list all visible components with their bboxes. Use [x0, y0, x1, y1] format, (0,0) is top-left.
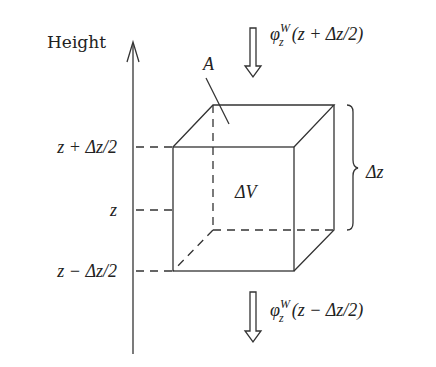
- level-label-mid: z: [109, 200, 117, 220]
- flux-label-bottom: φWz(z − Δz/2): [270, 297, 363, 325]
- flux-arrow-top: [245, 28, 261, 77]
- area-label: A: [202, 54, 215, 74]
- level-label-bottom: z − Δz/2: [56, 261, 117, 281]
- height-axis: [127, 42, 139, 354]
- down-arrow-icon: [245, 292, 261, 342]
- height-brace-icon: [347, 105, 358, 230]
- cube-hidden-edge-depth: [173, 230, 213, 271]
- cube-top-face: [173, 105, 334, 147]
- down-arrow-icon: [245, 28, 261, 77]
- cube-right-face: [294, 105, 334, 271]
- height-label: Δz: [365, 162, 384, 182]
- area-leader-line: [206, 78, 229, 124]
- control-volume-diagram: Height z + Δz/2 z z − Δz/2 A ΔV Δz φWz(z…: [0, 0, 436, 367]
- axis-label: Height: [47, 32, 106, 52]
- flux-label-top: φWz(z + Δz/2): [270, 21, 363, 49]
- volume-label: ΔV: [234, 182, 259, 202]
- level-label-top: z + Δz/2: [56, 137, 117, 157]
- flux-arrow-bottom: [245, 292, 261, 342]
